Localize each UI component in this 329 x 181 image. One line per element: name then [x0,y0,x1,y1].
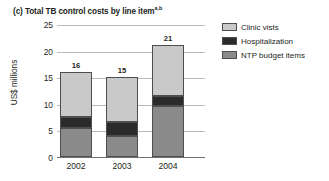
bar-segment[interactable] [106,77,138,122]
bar-total-label: 16 [50,62,102,70]
bar-segment[interactable] [106,122,138,135]
bar-segment[interactable] [152,106,184,157]
y-axis-tick-label: 10 [13,101,53,109]
x-axis-tick-label: 2002 [50,162,102,171]
bar-total-label: 15 [96,67,148,75]
chart-title: (c) Total TB control costs by line itema… [13,3,162,17]
y-axis-tick-label: 0 [13,154,53,162]
y-axis-title: US$ millions [10,38,19,128]
legend-item[interactable]: Clinic vists [222,21,326,33]
legend-swatch-icon [222,23,237,31]
y-axis-tick-label: 20 [13,48,53,56]
chart-title-text: (c) Total TB control costs by line item [13,7,155,16]
legend-swatch-icon [222,51,237,59]
bar-segment[interactable] [60,117,92,128]
bar-segment[interactable] [106,136,138,157]
bar-segment[interactable] [60,128,92,157]
bar-segment[interactable] [152,45,184,96]
chart-legend: Clinic vistsHospitalizationNTP budget it… [222,21,326,63]
legend-item[interactable]: Hospitalization [222,35,326,47]
bar-total-label: 21 [142,35,194,43]
x-axis-line [57,157,205,158]
legend-label: Clinic vists [241,23,279,32]
legend-label: NTP budget items [241,51,305,60]
legend-label: Hospitalization [241,37,293,46]
legend-swatch-icon [222,37,237,45]
gridline [57,25,205,26]
y-axis-tick-label: 25 [13,21,53,29]
x-axis-tick-label: 2004 [142,162,194,171]
y-axis-tick-label: 5 [13,127,53,135]
x-axis-tick-label: 2003 [96,162,148,171]
tb-control-costs-chart: (c) Total TB control costs by line itema… [0,0,329,181]
legend-item[interactable]: NTP budget items [222,49,326,61]
bar-segment[interactable] [152,96,184,107]
chart-title-superscript: a,b [155,5,163,11]
plot-area: 161521 [57,25,205,158]
bar-segment[interactable] [60,72,92,117]
y-axis-tick-label: 15 [13,74,53,82]
